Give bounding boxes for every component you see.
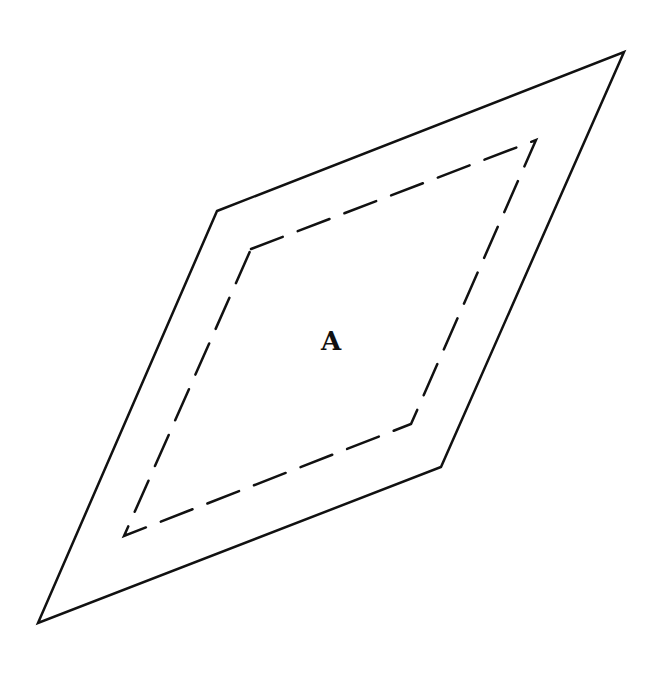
diagram-canvas: A [0, 0, 669, 676]
region-label-a: A [321, 326, 341, 356]
